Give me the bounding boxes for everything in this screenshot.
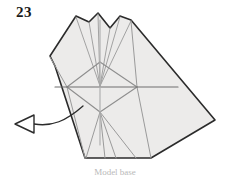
origami-figure-panel: 23 — [0, 0, 230, 175]
fold-direction-arrow-head — [15, 115, 34, 133]
figure-caption: Model base — [0, 168, 230, 175]
origami-diagram — [0, 0, 230, 175]
